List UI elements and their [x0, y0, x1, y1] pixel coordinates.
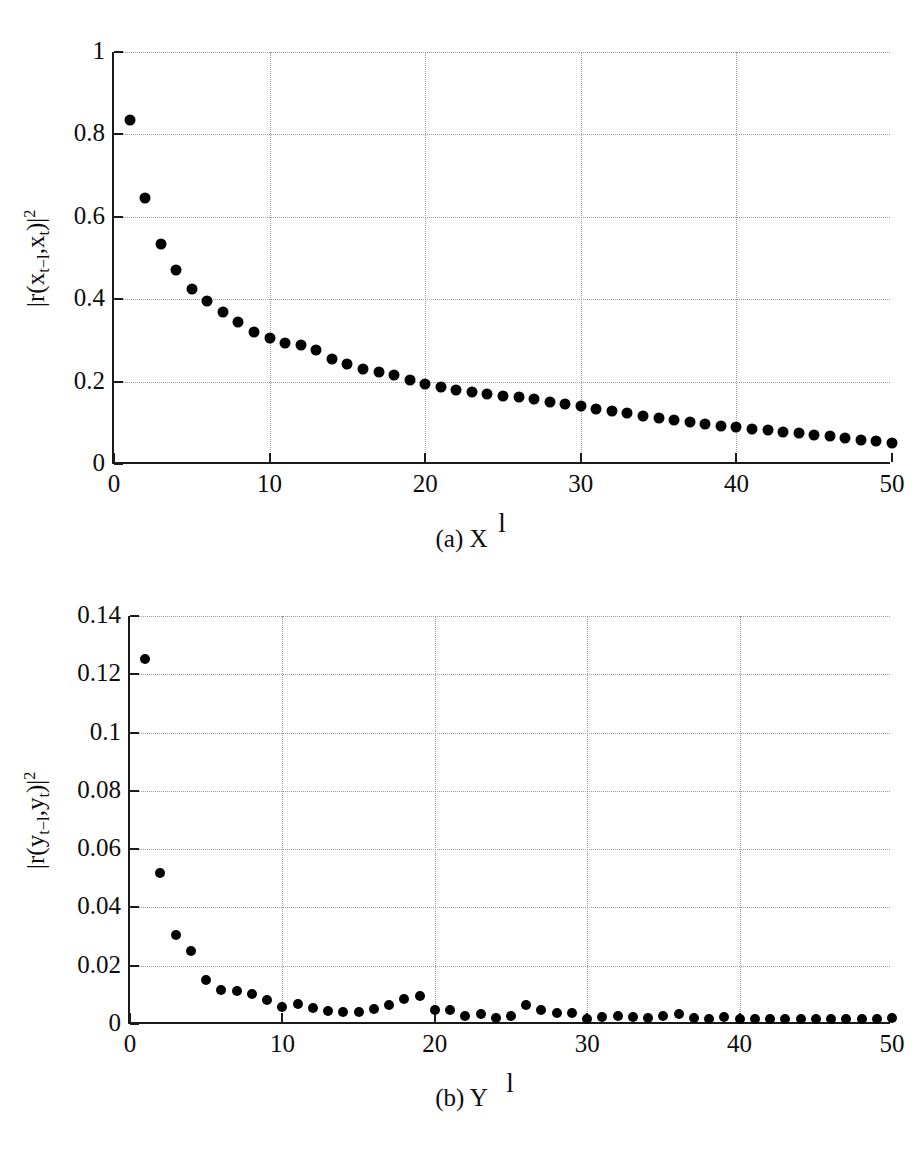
data-point: [476, 1009, 486, 1019]
x-tick-label: 0: [108, 471, 121, 496]
data-point: [430, 1005, 440, 1015]
x-tick-label: 20: [422, 1031, 447, 1056]
data-point: [506, 1011, 516, 1021]
data-point: [435, 382, 446, 393]
data-point: [778, 426, 789, 437]
data-point: [399, 994, 409, 1004]
data-point: [140, 654, 150, 664]
data-point: [295, 339, 306, 350]
x-tick-label: 50: [880, 1031, 905, 1056]
data-point: [746, 424, 757, 435]
data-point: [704, 1014, 714, 1024]
data-point: [262, 995, 272, 1005]
data-points-b: [130, 616, 890, 1022]
data-point: [857, 1014, 867, 1024]
data-point: [202, 296, 213, 307]
data-point: [811, 1014, 821, 1024]
data-point: [140, 193, 151, 204]
data-point: [155, 868, 165, 878]
data-point: [536, 1005, 546, 1015]
data-point: [354, 1007, 364, 1017]
data-point: [384, 1000, 394, 1010]
data-point: [155, 238, 166, 249]
data-point: [264, 333, 275, 344]
data-point: [482, 389, 493, 400]
tick-mark-y: [114, 463, 123, 465]
data-point: [855, 434, 866, 445]
data-point: [280, 337, 291, 348]
data-point: [591, 404, 602, 415]
plot-area-a: 00.20.40.60.8101020304050 l: [112, 52, 890, 464]
data-point: [809, 429, 820, 440]
x-tick-label: 30: [575, 1031, 600, 1056]
y-tick-label: 0: [93, 450, 106, 475]
data-point: [357, 364, 368, 375]
x-tick-label: 10: [257, 471, 282, 496]
data-point: [342, 358, 353, 369]
data-point: [544, 397, 555, 408]
data-point: [750, 1014, 760, 1024]
data-point: [597, 1012, 607, 1022]
data-point: [498, 391, 509, 402]
caption-a: (a) X: [0, 525, 923, 553]
x-tick-label: 0: [124, 1031, 137, 1056]
x-tick-label: 30: [568, 471, 593, 496]
data-point: [171, 265, 182, 276]
data-point: [293, 999, 303, 1009]
data-point: [560, 399, 571, 410]
data-point: [247, 989, 257, 999]
data-point: [872, 1014, 882, 1024]
data-point: [451, 384, 462, 395]
tick-mark-x: [891, 453, 893, 462]
y-tick-label: 0: [109, 1010, 122, 1035]
data-point: [277, 1002, 287, 1012]
x-tick-label: 50: [880, 471, 905, 496]
data-point: [643, 1013, 653, 1023]
data-point: [575, 401, 586, 412]
data-point: [793, 428, 804, 439]
data-point: [796, 1014, 806, 1024]
data-point: [491, 1013, 501, 1023]
data-point: [887, 438, 898, 449]
data-point: [552, 1008, 562, 1018]
data-point: [606, 406, 617, 417]
data-point: [669, 414, 680, 425]
data-point: [201, 975, 211, 985]
y-tick-label: 0.8: [74, 120, 105, 145]
data-point: [232, 986, 242, 996]
data-point: [124, 115, 135, 126]
data-point: [529, 394, 540, 405]
data-point: [217, 306, 228, 317]
caption-b: (b) Y: [0, 1084, 923, 1112]
y-tick-label: 0.1: [90, 718, 121, 743]
data-point: [653, 412, 664, 423]
y-axis-label-b: |r(yt−l,yt)|2: [20, 771, 54, 869]
data-point: [249, 327, 260, 338]
data-point: [689, 1013, 699, 1023]
y-tick-label: 0.6: [74, 202, 105, 227]
data-point: [373, 367, 384, 378]
y-tick-label: 0.04: [77, 893, 121, 918]
data-point: [700, 419, 711, 430]
data-point: [186, 946, 196, 956]
data-point: [613, 1011, 623, 1021]
data-point: [826, 1014, 836, 1024]
data-point: [582, 1014, 592, 1024]
data-point: [719, 1012, 729, 1022]
x-tick-label: 40: [727, 1031, 752, 1056]
x-tick-label: 40: [724, 471, 749, 496]
data-point: [731, 421, 742, 432]
data-point: [233, 316, 244, 327]
data-point: [466, 386, 477, 397]
data-point: [311, 344, 322, 355]
data-point: [216, 985, 226, 995]
data-point: [171, 930, 181, 940]
figure-autocorrelation: 00.20.40.60.8101020304050 l |r(xt−l,xt)|…: [0, 0, 923, 1154]
panel-a: 00.20.40.60.8101020304050 l |r(xt−l,xt)|…: [0, 0, 923, 560]
data-point: [308, 1003, 318, 1013]
plot-area-b: 00.020.040.060.080.10.120.1401020304050 …: [128, 616, 890, 1024]
tick-mark-y: [130, 1023, 139, 1025]
data-point: [628, 1012, 638, 1022]
data-point: [323, 1006, 333, 1016]
data-point: [765, 1014, 775, 1024]
